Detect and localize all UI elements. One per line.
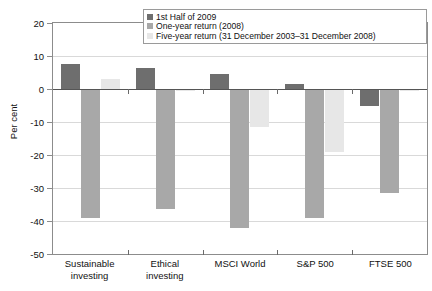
x-axis-category-label-line: FTSE 500	[353, 258, 428, 270]
x-axis-tickmark-bottom	[277, 250, 278, 255]
x-axis-category-label-line: S&P 500	[278, 258, 353, 270]
y-axis-tickmark	[47, 56, 52, 57]
bar	[360, 89, 379, 106]
x-axis-tickmark	[128, 89, 129, 94]
x-axis-tickmark	[277, 89, 278, 94]
y-axis-tick-label: -20	[4, 150, 44, 161]
y-axis-tickmark	[47, 23, 52, 24]
y-axis-tickmark	[47, 221, 52, 222]
legend-swatch-icon-2	[147, 33, 153, 39]
x-axis-category-label-line: investing	[127, 270, 202, 282]
x-axis-labels: SustainableinvestingEthicalinvestingMSCI…	[52, 258, 428, 281]
legend-swatch-icon-1	[147, 23, 153, 29]
bar	[81, 89, 100, 218]
x-axis-category-label-line: Sustainable	[52, 258, 127, 270]
legend-label-1: One-year return (2008)	[156, 21, 244, 31]
x-axis-category-label-line: MSCI World	[202, 258, 277, 270]
legend-label-2: Five-year return (31 December 2003–31 De…	[156, 31, 376, 41]
x-axis-tickmark	[203, 89, 204, 94]
x-axis-tickmark	[352, 89, 353, 94]
bar	[325, 89, 344, 152]
bar	[380, 89, 399, 193]
bar	[61, 64, 80, 89]
legend-item-1: One-year return (2008)	[147, 22, 423, 32]
y-axis-tick-label: 0	[4, 84, 44, 95]
bar	[230, 89, 249, 228]
legend-item-2: Five-year return (31 December 2003–31 De…	[147, 31, 423, 41]
bar-group	[128, 23, 203, 254]
x-axis-category-label: S&P 500	[278, 258, 353, 281]
x-axis-tickmark-bottom	[352, 250, 353, 255]
bar-groups	[53, 23, 427, 254]
y-axis-tick-label: 20	[4, 18, 44, 29]
bar	[250, 89, 269, 127]
x-axis-category-label: Ethicalinvesting	[127, 258, 202, 281]
zero-line	[53, 89, 427, 90]
bar-group	[53, 23, 128, 254]
x-axis-category-label-line: investing	[52, 270, 127, 282]
bar-group	[352, 23, 427, 254]
bar	[156, 89, 175, 209]
y-axis-tick-label: -30	[4, 183, 44, 194]
bar	[136, 68, 155, 89]
x-axis-category-label-line: Ethical	[127, 258, 202, 270]
x-axis-category-label: MSCI World	[202, 258, 277, 281]
x-axis-category-label: FTSE 500	[353, 258, 428, 281]
x-axis-tickmark-bottom	[128, 250, 129, 255]
bar-group	[277, 23, 352, 254]
y-axis-tickmark	[47, 89, 52, 90]
y-axis-tick-label: -10	[4, 117, 44, 128]
y-axis-tickmark	[47, 254, 52, 255]
y-axis-tick-label: 10	[4, 51, 44, 62]
bar	[305, 89, 324, 218]
bar-chart: Per cent 20100-10-20-30-40-50 Sustainabl…	[0, 0, 432, 291]
y-axis-tickmark	[47, 155, 52, 156]
chart-legend: 1st Half of 2009 One-year return (2008) …	[143, 9, 427, 44]
y-axis-tick-label: -40	[4, 216, 44, 227]
y-axis-tickmark	[47, 122, 52, 123]
y-axis-tick-label: -50	[4, 249, 44, 260]
bar	[210, 74, 229, 89]
plot-area	[52, 22, 428, 255]
x-axis-category-label: Sustainableinvesting	[52, 258, 127, 281]
legend-label-0: 1st Half of 2009	[156, 12, 216, 22]
y-axis-tickmark	[47, 188, 52, 189]
legend-item-0: 1st Half of 2009	[147, 12, 423, 22]
x-axis-tickmark-bottom	[203, 250, 204, 255]
bar-group	[203, 23, 278, 254]
legend-swatch-icon-0	[147, 14, 153, 20]
bar	[101, 79, 120, 89]
